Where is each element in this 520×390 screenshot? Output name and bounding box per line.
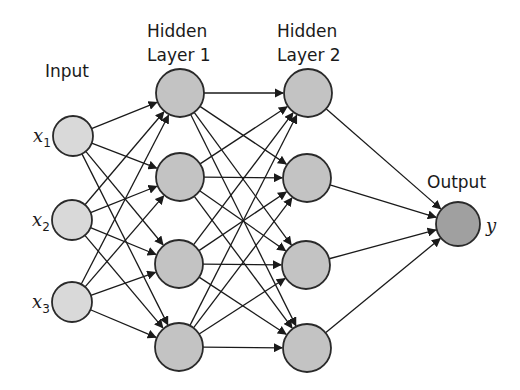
edge-input-3-to-hidden1-3 (91, 272, 156, 295)
edge-input-1-to-hidden1-1 (92, 102, 157, 128)
input-variable-label-1: x1 (33, 125, 51, 150)
hidden1-node-2 (156, 153, 204, 201)
output-node-1 (436, 202, 480, 246)
hidden1-node-4 (155, 323, 203, 371)
input-node-2 (52, 200, 92, 240)
neural-network-diagram: x1x2x3InputHiddenLayer 1HiddenLayer 2yOu… (0, 0, 520, 390)
edge-hidden2-4-to-output-1 (326, 239, 441, 333)
edge-input-2-to-hidden1-4 (85, 235, 163, 328)
edge-hidden2-2-to-output-1 (330, 185, 436, 217)
edge-hidden1-2-to-hidden2-2 (204, 177, 282, 178)
edge-input-1-to-hidden1-4 (82, 154, 168, 325)
input-variable-label-2: x2 (32, 209, 50, 234)
input-layer-label: Input (45, 61, 89, 81)
input-variable-label-3: x3 (32, 291, 50, 316)
edge-hidden1-4-to-hidden2-4 (203, 347, 282, 348)
hidden2-node-4 (283, 324, 331, 372)
input-node-3 (52, 282, 92, 322)
hidden2-node-2 (283, 154, 331, 202)
hidden2-node-3 (282, 241, 330, 289)
hidden2-layer-label: Layer 2 (277, 45, 341, 65)
network-nodes (52, 69, 480, 372)
hidden1-node-3 (155, 240, 203, 288)
edge-input-2-to-hidden1-3 (90, 228, 155, 255)
output-variable-label-1: y (485, 215, 497, 236)
output-layer-label: Output (427, 172, 486, 192)
hidden1-layer-label: Hidden (147, 21, 207, 41)
connection-edges (81, 93, 440, 348)
edge-input-3-to-hidden1-4 (90, 310, 156, 338)
hidden2-node-1 (284, 69, 332, 117)
edge-hidden2-3-to-output-1 (329, 230, 436, 259)
edge-input-1-to-hidden1-2 (92, 143, 157, 168)
edge-hidden2-1-to-output-1 (326, 109, 441, 209)
hidden1-node-1 (156, 69, 204, 117)
input-node-1 (53, 116, 93, 156)
layer-labels: x1x2x3InputHiddenLayer 1HiddenLayer 2yOu… (32, 21, 497, 316)
hidden2-layer-label: Hidden (277, 21, 337, 41)
hidden1-layer-label: Layer 1 (147, 45, 211, 65)
